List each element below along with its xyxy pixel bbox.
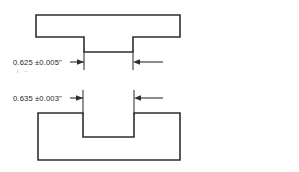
- upper-dim-arrow-left-icon: [77, 59, 84, 64]
- upper-part-tenon-outline: [36, 15, 180, 52]
- scan-artifact: [17, 70, 18, 73]
- lower-dim-arrow-left-icon: [76, 95, 83, 100]
- upper-dimension-label: 0.625 ±0.005": [13, 58, 62, 67]
- drawing-vector-layer: 0.625 ±0.005" 0.635 ±0.003": [0, 0, 299, 172]
- engineering-drawing-canvas: 0.625 ±0.005" 0.635 ±0.003": [0, 0, 299, 172]
- lower-part-mortise-outline: [38, 113, 180, 160]
- scan-artifact: [24, 71, 28, 72]
- lower-dimension-label: 0.635 ±0.003": [13, 94, 62, 103]
